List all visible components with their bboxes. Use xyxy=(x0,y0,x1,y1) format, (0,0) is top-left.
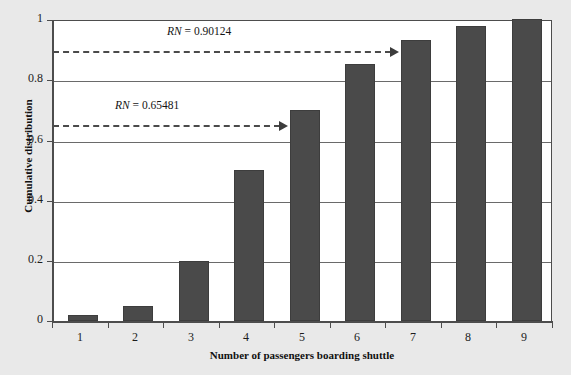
bar-7 xyxy=(401,40,431,321)
x-axis-title: Number of passengers boarding shuttle xyxy=(52,349,552,361)
annotation-prefix-0.90124: RN xyxy=(167,25,182,37)
chart-container: RN = 0.90124 RN = 0.65481 1 0.8 0.6 0.4 … xyxy=(0,0,571,375)
y-tick-label-1: 1 xyxy=(37,11,43,26)
annotation-eq-0.65481: = xyxy=(130,99,142,111)
x-tick-label-6: 6 xyxy=(342,330,372,345)
bar-series xyxy=(53,21,551,321)
bar-2 xyxy=(123,306,153,321)
annotation-dashline-0.90124 xyxy=(53,51,391,53)
x-tick-b4 xyxy=(274,322,275,328)
x-tick-label-9: 9 xyxy=(509,330,539,345)
bar-8 xyxy=(456,26,486,321)
annotation-value-0.65481: 0.65481 xyxy=(142,99,179,111)
bar-9 xyxy=(512,19,542,321)
bar-3 xyxy=(179,261,209,321)
plot-area xyxy=(52,20,552,322)
x-tick-b0 xyxy=(52,322,53,328)
x-tick-b1 xyxy=(108,322,109,328)
x-tick-label-4: 4 xyxy=(231,330,261,345)
x-tick-b5 xyxy=(330,322,331,328)
x-tick-label-1: 1 xyxy=(65,330,95,345)
x-tick-label-8: 8 xyxy=(453,330,483,345)
x-tick-b8 xyxy=(496,322,497,328)
x-tick-label-7: 7 xyxy=(398,330,428,345)
annotation-prefix-0.65481: RN xyxy=(115,99,130,111)
annotation-arrowhead-0.90124 xyxy=(390,47,399,57)
x-axis-line xyxy=(52,321,553,323)
x-tick-label-5: 5 xyxy=(287,330,317,345)
y-axis-title: Cumulative distribution xyxy=(22,36,34,276)
bar-6 xyxy=(345,64,375,321)
annotation-value-0.90124: 0.90124 xyxy=(194,25,231,37)
annotation-eq-0.90124: = xyxy=(182,25,194,37)
x-tick-b6 xyxy=(385,322,386,328)
bar-5 xyxy=(290,110,320,321)
annotation-arrowhead-0.65481 xyxy=(279,121,288,131)
annotation-label-0.65481: RN = 0.65481 xyxy=(115,99,179,111)
y-tick-label-0: 0 xyxy=(37,312,43,327)
x-tick-label-3: 3 xyxy=(176,330,206,345)
x-tick-b9 xyxy=(552,322,553,328)
bar-4 xyxy=(234,170,264,321)
x-tick-b3 xyxy=(219,322,220,328)
y-axis-line xyxy=(52,20,54,323)
annotation-label-0.90124: RN = 0.90124 xyxy=(167,25,231,37)
x-tick-label-2: 2 xyxy=(120,330,150,345)
x-tick-b2 xyxy=(163,322,164,328)
x-tick-b7 xyxy=(441,322,442,328)
annotation-dashline-0.65481 xyxy=(53,125,280,127)
